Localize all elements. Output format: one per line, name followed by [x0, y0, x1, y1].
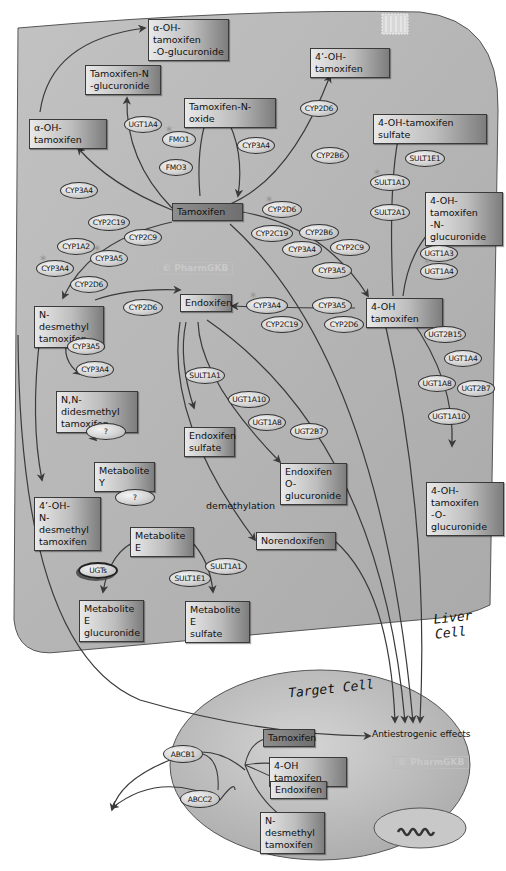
enzyme-cyp2c19_4oh[interactable]: CYP2C19: [251, 225, 293, 242]
enzyme-q2[interactable]: ?: [115, 489, 155, 506]
enzyme-cyp2c9_nd[interactable]: CYP2C9: [124, 229, 162, 246]
variant-star-icon: ✶: [422, 257, 432, 267]
enzyme-cyp2c19_endo[interactable]: CYP2C19: [261, 316, 303, 333]
enzyme-cyp2d6_endo[interactable]: CYP2D6: [123, 299, 163, 316]
enzyme-cyp3a4_didm[interactable]: CYP3A4: [76, 361, 114, 378]
enzyme-abcb1[interactable]: ABCB1: [163, 745, 203, 763]
enzyme-ugt1a4_c[interactable]: UGT1A4: [444, 350, 482, 367]
enzyme-sult1e1_me[interactable]: SULT1E1: [169, 570, 211, 587]
enzyme-cyp2b6_4oh[interactable]: CYP2B6: [299, 224, 339, 241]
enzyme-q1[interactable]: ?: [86, 423, 126, 440]
node-tamoxifen-n-glucuronide[interactable]: Tamoxifen-N -glucuronide: [85, 65, 161, 95]
enzyme-ugt1a10_4oh[interactable]: UGT1A10: [428, 408, 470, 425]
enzyme-ugt1a4_a[interactable]: UGT1A4: [124, 116, 162, 133]
enzyme-cyp3a5_didm[interactable]: CYP3A5: [67, 338, 105, 355]
target-node-endoxifen[interactable]: Endoxifen: [270, 781, 327, 799]
node-metabolite-y[interactable]: Metabolite Y: [94, 462, 155, 492]
enzyme-ugt2b15[interactable]: UGT2B15: [424, 326, 466, 343]
enzyme-cyp3a4_alpha[interactable]: CYP3A4: [60, 182, 98, 199]
variant-star-icon: ✶: [248, 291, 258, 301]
enzyme-cyp3a4_n_ox[interactable]: CYP3A4: [237, 137, 275, 154]
target-node-n-desmethyl-tamoxifen[interactable]: N-desmethyl tamoxifen: [260, 812, 325, 854]
enzyme-cyp2c9_4oh[interactable]: CYP2C9: [330, 239, 370, 256]
variant-star-icon: ✶: [264, 195, 274, 205]
node-endoxifen-o-glucuronide[interactable]: Endoxifen O-glucuronide: [280, 463, 347, 505]
variant-star-icon: ✶: [372, 168, 382, 178]
node-4-oh-tamoxifen[interactable]: 4-OH tamoxifen: [366, 298, 443, 328]
enzyme-sult2a1[interactable]: SULT2A1: [370, 204, 410, 221]
enzyme-cyp2c19_nd[interactable]: CYP2C19: [88, 214, 130, 231]
node-4-oh-tamoxifen-n-glucuronide[interactable]: 4-OH-tamoxifen -N-glucuronide: [425, 192, 503, 246]
enzyme-abcc2[interactable]: ABCC2: [180, 790, 220, 808]
pharmgkb-watermark: © PharmGKB: [157, 262, 233, 275]
antiestrogenic-effects-label: Antiestrogenic effects: [372, 729, 470, 739]
enzyme-cyp2d6_4p[interactable]: CYP2D6: [300, 100, 338, 117]
enzyme-cyp3a5_4oh[interactable]: CYP3A5: [312, 262, 352, 279]
enzyme-cyp3a4_4oh[interactable]: CYP3A4: [282, 241, 322, 258]
enzyme-cyp2d6_endo2[interactable]: CYP2D6: [324, 316, 364, 333]
enzyme-sult1a1_me[interactable]: SULT1A1: [205, 558, 247, 575]
node-4-oh-tamoxifen-o-glucuronide[interactable]: 4-OH-tamoxifen -O-glucuronide: [426, 482, 504, 536]
enzyme-ugts[interactable]: UGTs: [78, 562, 118, 579]
node-4prime-oh-tamoxifen[interactable]: 4’-OH-tamoxifen: [310, 48, 390, 78]
membrane-icon: [382, 14, 408, 34]
node-metabolite-e[interactable]: Metabolite E: [130, 527, 194, 557]
enzyme-ugt1a8_4oh[interactable]: UGT1A8: [418, 375, 456, 392]
enzyme-cyp1a2_nd[interactable]: CYP1A2: [57, 238, 95, 255]
node-tamoxifen[interactable]: Tamoxifen: [172, 203, 243, 221]
enzyme-fmo3[interactable]: FMO3: [159, 159, 193, 176]
node-endoxifen-sulfate[interactable]: Endoxifen sulfate: [184, 427, 235, 457]
node-metabolite-e-glucuronide[interactable]: Metabolite E glucuronide: [79, 600, 144, 642]
enzyme-sult1e1_a[interactable]: SULT1E1: [405, 150, 445, 167]
enzyme-sult1a1_endo[interactable]: SULT1A1: [185, 367, 225, 384]
enzyme-ugt1a10_endo[interactable]: UGT1A10: [228, 391, 270, 408]
target-node-tamoxifen[interactable]: Tamoxifen: [263, 729, 315, 747]
enzyme-ugt1a8_endo[interactable]: UGT1A8: [248, 414, 286, 431]
node-4-oh-tamoxifen-sulfate[interactable]: 4-OH-tamoxifen sulfate: [373, 114, 487, 144]
node-metabolite-e-sulfate[interactable]: Metabolite E sulfate: [185, 601, 250, 643]
variant-star-icon: ✶: [92, 244, 102, 254]
node-norendoxifen[interactable]: Norendoxifen: [256, 532, 336, 550]
demethylation-label: demethylation: [206, 500, 275, 511]
variant-star-icon: ✶: [164, 125, 174, 135]
enzyme-ugt2b7_endo[interactable]: UGT2B7: [290, 423, 328, 440]
variant-star-icon: ✶: [38, 254, 48, 264]
pharmgkb-watermark-target: © PharmGKB: [393, 756, 469, 769]
node-4prime-oh-n-desmethyl-tamoxifen[interactable]: 4’-OH- N-desmethyl tamoxifen: [34, 497, 101, 551]
node-endoxifen[interactable]: Endoxifen: [180, 294, 232, 312]
enzyme-cyp3a5_endo[interactable]: CYP3A5: [312, 297, 352, 314]
node-alpha-oh-tamoxifen[interactable]: α-OH-tamoxifen: [29, 119, 107, 149]
node-alpha-oh-tamoxifen-o-glucuronide[interactable]: α-OH-tamoxifen -O-glucuronide: [148, 19, 229, 61]
enzyme-cyp2d6_nd[interactable]: CYP2D6: [70, 276, 108, 293]
node-tamoxifen-n-oxide[interactable]: Tamoxifen-N-oxide: [184, 98, 276, 128]
enzyme-cyp2b6_4p[interactable]: CYP2B6: [311, 147, 349, 164]
enzyme-ugt2b7_4oh[interactable]: UGT2B7: [457, 380, 495, 397]
nucleus: [374, 808, 466, 848]
